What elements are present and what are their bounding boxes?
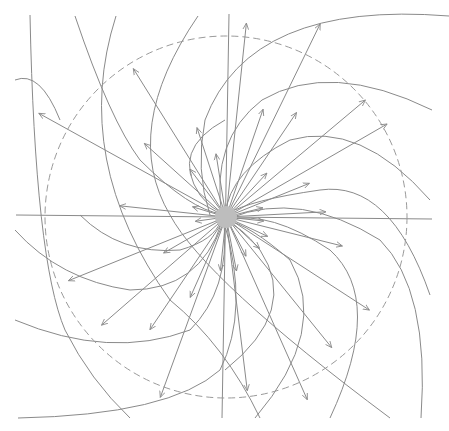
radial-arrow bbox=[226, 100, 365, 217]
radial-field-diagram bbox=[0, 0, 449, 431]
field-arc bbox=[201, 14, 449, 215]
radial-arrow bbox=[226, 217, 342, 246]
center-source bbox=[215, 206, 237, 228]
radial-arrow bbox=[226, 124, 387, 217]
field-arc bbox=[15, 78, 60, 120]
radial-arrow bbox=[160, 217, 226, 397]
field-arc bbox=[75, 16, 222, 214]
field-arc bbox=[225, 136, 430, 215]
radial-arrow bbox=[226, 217, 332, 348]
field-arc bbox=[220, 82, 432, 217]
radial-arrow bbox=[226, 183, 309, 217]
field-arc bbox=[225, 222, 274, 370]
field-arc bbox=[30, 15, 130, 418]
radial-arrow bbox=[226, 217, 307, 400]
radial-arrow bbox=[226, 24, 320, 217]
